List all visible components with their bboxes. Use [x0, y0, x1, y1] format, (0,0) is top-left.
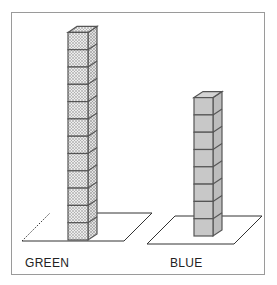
cube-4: [68, 84, 88, 101]
cube-9: [68, 171, 88, 188]
green-tower-group: [22, 26, 152, 241]
cube-10: [68, 188, 88, 205]
cube-7: [68, 136, 88, 153]
blue-tower-label: BLUE: [170, 256, 203, 270]
base-right-edge: [234, 216, 262, 244]
cube-3: [68, 67, 88, 84]
cube-8: [194, 219, 213, 236]
base-left-edge: [147, 216, 175, 244]
cube-3: [194, 132, 213, 149]
cube-12: [68, 223, 88, 240]
cube-6: [194, 184, 213, 201]
base-right-edge: [124, 213, 152, 241]
cube-2: [68, 50, 88, 67]
cube-2: [194, 115, 213, 132]
cube-1: [68, 32, 88, 49]
cube-11: [68, 205, 88, 222]
cube-8: [68, 154, 88, 171]
cube-6: [68, 119, 88, 136]
cube-5: [68, 102, 88, 119]
blue-tower-group: [147, 92, 262, 244]
tower-scene: [0, 0, 277, 285]
cube-4: [194, 150, 213, 167]
cube-7: [194, 201, 213, 218]
base-left-edge: [22, 213, 50, 241]
cube-5: [194, 167, 213, 184]
green-tower-label: GREEN: [25, 256, 69, 270]
cube-1: [194, 98, 213, 115]
